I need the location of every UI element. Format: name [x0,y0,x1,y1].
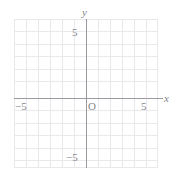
gridline-vertical [146,19,147,168]
origin-label: O [88,100,96,112]
gridline-vertical [50,19,51,168]
gridline-vertical [26,19,27,168]
gridline-vertical [62,19,63,168]
gridline-vertical [134,19,135,168]
gridline-vertical [14,19,15,168]
x-axis-label: x [164,92,169,104]
gridline-vertical [38,19,39,168]
y-tick-label-5: 5 [72,26,78,38]
y-axis-label: y [82,6,87,18]
x-axis-line [14,98,163,99]
x-tick-label-5: 5 [141,100,147,112]
gridline-vertical [110,19,111,168]
x-tick-label-minus-5: −5 [15,100,27,112]
y-tick-label-minus-5: −5 [66,151,78,163]
coordinate-plane-figure: y x 5 −5 5 −5 O [0,0,180,178]
gridline-vertical [122,19,123,168]
y-axis-line [86,19,87,168]
gridline-vertical [98,19,99,168]
gridline-vertical [74,19,75,168]
gridline-vertical [157,19,158,168]
